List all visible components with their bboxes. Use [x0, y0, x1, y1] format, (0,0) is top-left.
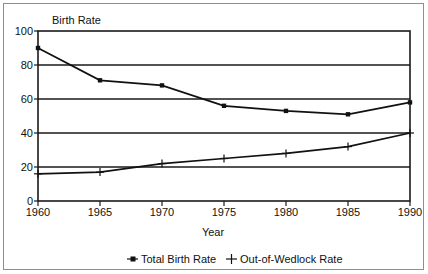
x-tick-label-1980: 1980: [274, 206, 298, 218]
chart-figure: 100 80 60 40 20 0 1960 1965 1970 1975 19…: [0, 0, 428, 274]
data-point-marker: [98, 78, 102, 82]
y-tick-label-80: 80: [21, 59, 33, 71]
series-markers-total-birth-rate: [36, 46, 412, 117]
data-point-marker: [36, 46, 40, 50]
series-markers-out-of-wedlock-rate: [34, 129, 414, 178]
x-tick-label-1965: 1965: [88, 206, 112, 218]
legend-label-out-of-wedlock-rate: Out-of-Wedlock Rate: [240, 253, 343, 265]
legend-marker-square: [127, 257, 138, 262]
data-point-marker: [408, 100, 412, 104]
plot-area-border: [38, 31, 410, 201]
x-tick-label-1960: 1960: [26, 206, 50, 218]
line-chart: 100 80 60 40 20 0 1960 1965 1970 1975 19…: [0, 0, 428, 274]
y-axis-title: Birth Rate: [52, 14, 101, 26]
y-tick-label-20: 20: [21, 161, 33, 173]
data-point-marker: [284, 109, 288, 113]
series-line-out-of-wedlock-rate: [38, 133, 410, 174]
x-tick-label-1975: 1975: [212, 206, 236, 218]
legend-marker-plus: [226, 254, 237, 264]
data-point-marker: [346, 112, 350, 116]
chart-legend: Total Birth Rate Out-of-Wedlock Rate: [127, 253, 343, 265]
x-tick-label-1990: 1990: [398, 206, 422, 218]
y-tick-label-40: 40: [21, 127, 33, 139]
y-tick-label-100: 100: [15, 25, 33, 37]
x-axis-title: Year: [202, 226, 225, 238]
gridlines: [38, 65, 410, 167]
legend-label-total-birth-rate: Total Birth Rate: [141, 253, 216, 265]
x-tick-label-1985: 1985: [336, 206, 360, 218]
y-tick-label-60: 60: [21, 93, 33, 105]
data-point-marker: [222, 104, 226, 108]
x-tick-label-1970: 1970: [150, 206, 174, 218]
data-point-marker: [160, 83, 164, 87]
